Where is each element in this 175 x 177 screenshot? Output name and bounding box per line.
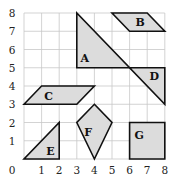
x-axis-tick-label: 4	[91, 164, 98, 176]
x-axis-tick-label: 5	[109, 164, 116, 176]
shape-label: G	[135, 129, 144, 142]
y-axis-tick-label: 6	[9, 44, 16, 56]
shape-label: A	[79, 52, 89, 65]
y-axis-tick-label: 4	[9, 80, 16, 92]
x-axis-tick-label: 3	[73, 164, 80, 176]
shape-f-polygon	[77, 104, 112, 159]
x-axis-tick-label: 2	[56, 164, 63, 176]
shape-label: C	[44, 90, 53, 103]
y-axis-tick-label: 5	[9, 62, 16, 74]
coordinate-grid-diagram: ABCDEFG 01234567812345678	[0, 0, 175, 177]
shape-label: E	[46, 145, 54, 158]
shape-c: C	[24, 86, 94, 104]
y-axis-tick-label: 2	[9, 117, 16, 129]
shape-f: F	[77, 104, 112, 159]
x-axis-tick-label: 7	[144, 164, 151, 176]
y-axis-tick-label: 8	[9, 7, 16, 19]
y-axis-tick-label: 1	[9, 135, 16, 147]
shape-label: F	[84, 126, 92, 139]
y-axis-tick-label: 3	[9, 98, 16, 110]
shape-b: B	[112, 13, 165, 31]
y-axis-tick-label: 7	[9, 25, 16, 37]
x-axis-tick-label: 8	[161, 164, 168, 176]
shape-label: D	[149, 70, 159, 83]
origin-label: 0	[9, 164, 16, 176]
shape-g: G	[130, 123, 165, 160]
shape-c-polygon	[24, 86, 94, 104]
x-axis-tick-label: 6	[126, 164, 133, 176]
x-axis-tick-label: 1	[38, 164, 45, 176]
shape-label: B	[136, 16, 145, 29]
